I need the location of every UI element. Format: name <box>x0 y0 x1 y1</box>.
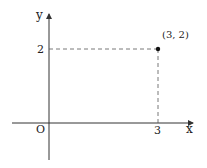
x-axis-label: x <box>186 122 193 136</box>
x-tick-label: 3 <box>154 124 161 137</box>
point-label: (3, 2) <box>162 29 189 40</box>
origin-label: O <box>36 123 45 136</box>
data-point <box>156 47 160 51</box>
y-axis-label: y <box>35 8 43 22</box>
y-tick-label: 2 <box>37 43 44 56</box>
coordinate-diagram: y x O 2 3 (3, 2) <box>0 0 207 168</box>
